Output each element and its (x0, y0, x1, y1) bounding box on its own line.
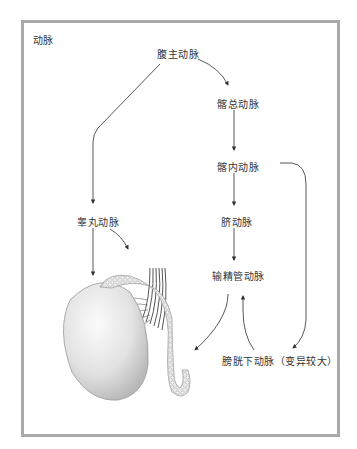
arrow-deferential-to-vas (195, 294, 228, 350)
arrow-inferior-vesical-to-deferential (243, 296, 254, 350)
arrow-internal-iliac-to-inferior-vesical (280, 163, 306, 348)
arrow-aorta-to-testicular (93, 64, 160, 203)
arrow-testicular-to-epididymis (110, 229, 128, 249)
arrow-aorta-to-common-iliac (198, 59, 228, 85)
diagram-arrows (0, 0, 357, 449)
testis-illustration (63, 268, 190, 400)
